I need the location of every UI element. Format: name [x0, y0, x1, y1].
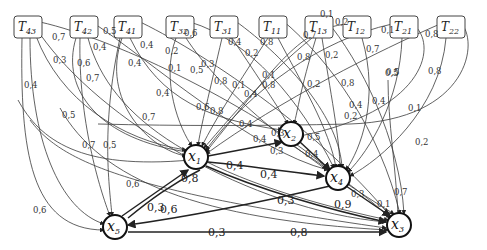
edge-weight-label: 0,8	[425, 29, 439, 39]
graph-diagram: T43 T42 T41 T32 T31 T11 T13 T12 T21 T22 …	[0, 0, 487, 250]
edge-weight-label: 0,8	[297, 52, 311, 62]
edge-weight-label: 0,1	[320, 9, 334, 19]
edge-weight-label: 0,8	[428, 66, 442, 76]
t-node-T43[interactable]: T43	[14, 16, 42, 38]
edge-weight-label: 0,6	[77, 58, 91, 68]
edge-weight-label: 0,3	[208, 226, 226, 239]
edge-weight-label: 0,2	[415, 137, 429, 147]
edge-weight-label: 0,8	[214, 76, 228, 86]
edge-weight-label: 0,4	[260, 168, 278, 181]
edge-weight-label: 0,6	[160, 203, 178, 216]
edge-weight-label: 0,4	[239, 119, 253, 129]
edge-weight-label: 0,8	[210, 106, 224, 116]
edge-weight-label: 0,5	[386, 67, 400, 77]
x-node-x5[interactable]: x5	[103, 215, 127, 239]
edge-weight-label: 0,7	[394, 187, 408, 197]
edge-weight-label: 0,4	[24, 80, 38, 90]
edge-weight-label: 0,6	[126, 179, 140, 189]
t-node-T41[interactable]: T41	[114, 16, 142, 38]
edge-weight-label: 0,5	[307, 132, 321, 142]
edge-weight-label: 0,4	[93, 42, 107, 52]
edge-weight-label: 0,7	[366, 44, 380, 54]
edge-weight-label: 0,4	[128, 58, 142, 68]
edge-labels: 0,70,30,60,70,40,50,40,40,40,50,70,50,60…	[24, 9, 442, 215]
edge-weight-label: 0,3	[53, 55, 67, 65]
edge-weight-label: 0,5	[103, 140, 117, 150]
edge-weight-label: 0,4	[156, 88, 170, 98]
edge-weight-label: 0,8	[262, 80, 276, 90]
edge-weight-label: 0,4	[228, 37, 242, 47]
edge-weight-label: 0,2	[325, 50, 339, 60]
edge-weight-label: 0,7	[82, 140, 96, 150]
edge-weight-label: 0,8	[181, 172, 199, 185]
edge-weight-label: 0,5	[103, 26, 117, 36]
edge-weight-label: 0,3	[351, 189, 365, 199]
edge-weight-label: 0,4	[372, 96, 386, 106]
edge-weight-label: 0,6	[196, 102, 210, 112]
t-node-T22[interactable]: T22	[437, 16, 465, 38]
edge-weight-label: 0,3	[201, 59, 215, 69]
bold-edge-labels: 0,40,40,80,30,60,30,90,30,8	[147, 159, 352, 239]
edge-weight-label: 0,4	[140, 40, 154, 50]
graph-canvas: T43 T42 T41 T32 T31 T11 T13 T12 T21 T22 …	[0, 0, 487, 250]
edge-weight-label: 0,1	[381, 25, 395, 35]
x-node-x3[interactable]: x3	[387, 213, 411, 237]
edge-weight-label: 0,2	[344, 111, 358, 121]
edge-weight-label: 0,4	[349, 100, 363, 110]
edge-weight-label: 0,2	[245, 48, 259, 58]
edge-weight-label: 0,1	[408, 103, 422, 113]
edge-weight-label: 0,3	[271, 128, 285, 138]
edge-weight-label: 0,3	[270, 146, 284, 156]
x-node-x1[interactable]: x1	[184, 145, 208, 169]
edge-weight-label: 0,2	[335, 17, 349, 27]
edge-weight-label: 0,7	[86, 73, 100, 83]
edge-weight-label: 0,3	[277, 194, 295, 207]
x-node-x4[interactable]: x4	[326, 166, 350, 190]
t-nodes: T43 T42 T41 T32 T31 T11 T13 T12 T21 T22	[14, 16, 465, 38]
t-node-T31[interactable]: T31	[210, 16, 238, 38]
edge-weight-label: 0,1	[168, 63, 182, 73]
edge-weight-label: 0,8	[260, 37, 274, 47]
edge-weight-label: 0,4	[253, 134, 267, 144]
edge-weight-label: 0,5	[62, 110, 76, 120]
edge-weight-label: 0,1	[262, 70, 276, 80]
edge-weight-label: 0,2	[307, 79, 321, 89]
edge-weight-label: 0,7	[303, 30, 317, 40]
t-node-T42[interactable]: T42	[70, 16, 98, 38]
edge-weight-label: 0,6	[33, 205, 47, 215]
edge-weight-label: 0,4	[305, 149, 319, 159]
edge-weight-label: 0,1	[377, 199, 391, 209]
edge-weight-label: 0,8	[341, 78, 355, 88]
edge-weight-label: 0,2	[165, 46, 179, 56]
edge-weight-label: 0,4	[244, 89, 258, 99]
edge-weight-label: 0,9	[334, 198, 352, 211]
edge-weight-label: 0,7	[52, 32, 66, 42]
edge-weight-label: 0,8	[290, 226, 308, 239]
edge-weight-label: 0,7	[142, 112, 156, 122]
edge-weight-label: 0,4	[226, 159, 244, 172]
t-node-T11[interactable]: T11	[259, 16, 287, 38]
edge-weight-label: 0,6	[184, 28, 198, 38]
